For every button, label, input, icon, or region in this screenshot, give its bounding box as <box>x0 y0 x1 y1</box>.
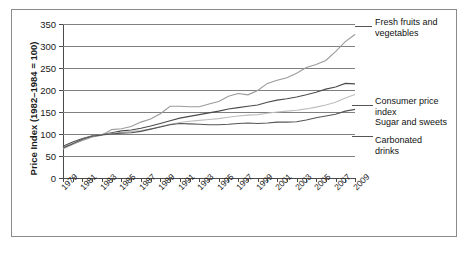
annotation-fresh-fruits: Fresh fruits and vegetables <box>375 17 438 38</box>
x-axis-tick <box>112 178 113 182</box>
y-axis-tick-label: 100 <box>40 129 56 140</box>
chart-screenshot: Price Index (1982–1984 = 100) 0501001502… <box>0 0 469 257</box>
x-axis-tick <box>326 178 327 182</box>
series-line-sugar-and-sweets <box>63 94 355 149</box>
annotation-cpi-line1: Consumer price <box>375 96 439 107</box>
y-axis-tick-label: 50 <box>45 151 56 162</box>
y-axis-tick-label: 250 <box>40 63 56 74</box>
y-axis-tick-label: 350 <box>40 19 56 30</box>
annotation-carbonated-line2: drinks <box>375 146 422 157</box>
annotation-sugar-and-sweets: Sugar and sweets <box>375 117 447 128</box>
plot-area: 050100150200250300350 197919811983198519… <box>63 24 355 178</box>
x-axis-tick <box>151 178 152 182</box>
x-axis-tick <box>345 178 346 182</box>
series-line-fresh-fruits-and-vegetables <box>63 35 355 148</box>
leader-consumer-price-index <box>352 105 373 106</box>
annotation-fresh-fruits-line1: Fresh fruits and <box>375 17 438 28</box>
annotation-consumer-price-index: Consumer price index <box>375 96 439 117</box>
y-axis-tick-label: 200 <box>40 85 56 96</box>
y-axis-tick-label: 300 <box>40 41 56 52</box>
y-axis-tick-label: 0 <box>51 173 56 184</box>
annotation-carbonated-line1: Carbonated <box>375 135 422 146</box>
x-axis-tick <box>92 178 93 182</box>
leader-fresh-fruits <box>355 26 372 27</box>
x-axis-tick <box>248 178 249 182</box>
x-axis-tick <box>267 178 268 182</box>
series-line-consumer-price-index <box>63 83 355 146</box>
annotation-fresh-fruits-line2: vegetables <box>375 28 438 39</box>
x-axis-tick <box>306 178 307 182</box>
x-axis-tick <box>287 178 288 182</box>
y-axis-tick-label: 150 <box>40 107 56 118</box>
x-axis-tick <box>228 178 229 182</box>
x-axis-tick <box>73 178 74 182</box>
x-axis-tick <box>131 178 132 182</box>
annotation-cpi-line2: index <box>375 107 439 118</box>
x-axis-tick <box>209 178 210 182</box>
y-axis-title: Price Index (1982–1984 = 100) <box>28 24 39 194</box>
series-line-carbonated-drinks <box>63 109 355 148</box>
x-axis-tick <box>190 178 191 182</box>
annotation-carbonated-drinks: Carbonated drinks <box>375 135 422 156</box>
leader-carbonated-drinks <box>352 136 373 137</box>
annotation-sugar-line1: Sugar and sweets <box>375 117 447 128</box>
x-axis-tick <box>170 178 171 182</box>
series-lines <box>63 24 355 178</box>
